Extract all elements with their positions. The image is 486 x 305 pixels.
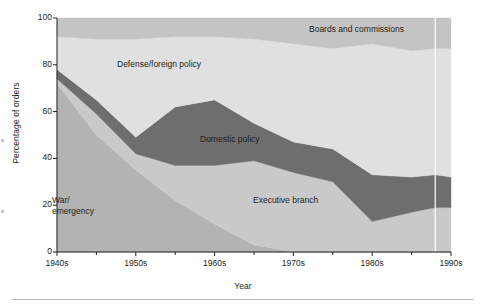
area-label: Domestic policy xyxy=(200,134,260,145)
x-tick-label: 1940s xyxy=(35,258,79,268)
y-tick-label: 80 xyxy=(26,59,52,69)
area-label: Executive branch xyxy=(253,195,318,206)
edge-artifact-lower xyxy=(1,210,4,213)
area-label: Defense/foreign policy xyxy=(117,59,201,70)
x-tick-label: 1980s xyxy=(350,258,394,268)
edge-artifact-upper xyxy=(1,139,4,142)
area-label: Boards and commissions xyxy=(309,24,404,35)
y-tick-label: 40 xyxy=(26,152,52,162)
y-axis-title: Percentage of orders xyxy=(11,80,21,166)
x-tick-label: 1960s xyxy=(193,258,237,268)
x-tick-label: 1970s xyxy=(271,258,315,268)
y-tick-label: 60 xyxy=(26,106,52,116)
y-tick-label: 20 xyxy=(26,199,52,209)
area-label: War/ emergency xyxy=(52,195,94,216)
y-tick-label: 100 xyxy=(26,12,52,22)
x-axis-title: Year xyxy=(0,281,486,291)
footer-rule xyxy=(12,299,474,300)
x-tick-label: 1950s xyxy=(114,258,158,268)
x-tick-label: 1990s xyxy=(429,258,473,268)
y-tick-label: 0 xyxy=(26,246,52,256)
